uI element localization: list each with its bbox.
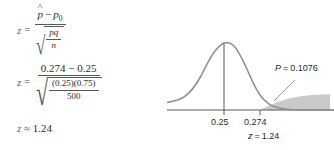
formula-line-3-value: 1.24	[33, 122, 52, 134]
mean-tick-label: 0.25	[211, 117, 229, 127]
formula-line-2: z = 0.274 − 0.25 √ (0.25)(0.75) 500	[17, 62, 105, 102]
pq-product-over-500-fraction: (0.25)(0.75) 500	[49, 79, 99, 102]
sample-size-denominator: 500	[64, 91, 84, 102]
formula-line-1-fraction: ^p−p0 √ pq n	[33, 8, 67, 52]
formula-line-1: z = ^p−p0 √ pq n	[17, 8, 67, 52]
p-null-subscript: 0	[59, 14, 63, 23]
formula-line-1-relation: =	[24, 24, 30, 35]
pq-product-numerator: (0.25)(0.75)	[49, 79, 99, 91]
critical-tick-label: 0.274	[244, 117, 267, 127]
p-value: 0.1076	[290, 63, 318, 73]
hat-accent-icon: ^	[38, 3, 43, 12]
formula-line-3-variable: z	[17, 122, 21, 134]
radical-sign-icon: √	[36, 71, 48, 111]
z-value: 1.24	[262, 131, 280, 141]
formula-panel: z = ^p−p0 √ pq n	[0, 0, 167, 150]
z-score-label: z=1.24	[248, 131, 279, 141]
formula-line-2-denominator: √ (0.25)(0.75) 500	[33, 76, 105, 102]
minus-operator: −	[45, 8, 51, 20]
radical-1: √ pq n	[36, 26, 64, 51]
formula-line-1-denominator: √ pq n	[33, 25, 67, 51]
p-symbol: P	[275, 63, 281, 73]
formula-line-2-relation: =	[24, 76, 30, 87]
radical-2: √ (0.25)(0.75) 500	[36, 77, 102, 102]
z-symbol: z	[248, 131, 253, 141]
formula-line-1-variable: z	[17, 24, 21, 36]
shaded-tail-region	[260, 94, 330, 110]
normal-curve-panel: P=0.1076 0.25 0.274 z=1.24	[167, 0, 334, 150]
normal-curve-chart	[167, 0, 334, 150]
formula-line-3: z ≈ 1.24	[17, 122, 52, 134]
pq-over-n-fraction: pq n	[46, 28, 61, 51]
formula-line-2-fraction: 0.274 − 0.25 √ (0.25)(0.75) 500	[33, 62, 105, 102]
formula-line-3-relation: ≈	[24, 123, 30, 134]
n-denominator: n	[49, 40, 60, 51]
pq-numerator: pq	[46, 28, 61, 40]
radical-2-contents: (0.25)(0.75) 500	[47, 77, 102, 102]
radical-sign-icon: √	[36, 22, 45, 59]
radical-1-contents: pq n	[44, 26, 64, 51]
p-relation: =	[283, 63, 288, 73]
z-relation: =	[255, 131, 260, 141]
p-value-annotation: P=0.1076	[275, 63, 318, 73]
p-hat-symbol: ^p	[38, 8, 44, 20]
formula-line-2-variable: z	[17, 76, 21, 88]
figure-root: z = ^p−p0 √ pq n	[0, 0, 334, 150]
